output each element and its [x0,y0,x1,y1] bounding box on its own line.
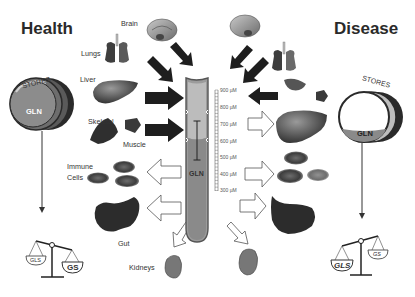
scale-400: 400 µM [220,171,237,177]
arrow-tube-to-gut-right [240,193,266,219]
liver-icon-right [276,111,327,144]
label-immune: Immune [67,162,93,171]
balance-right-gls: GLS [334,261,350,270]
ruler-ticks [215,90,218,191]
gut-icon-right [271,196,315,234]
arrow-liver-to-tube [145,86,184,110]
arrow-lungs-to-tube [147,56,173,82]
balance-left-gls: GLS [30,257,41,263]
arrow-muscle-right-to-tube [248,87,278,105]
stores-content-left: GLN [26,107,42,116]
liver-icon-left [93,80,138,103]
arrow-muscle-to-tube [145,118,184,142]
arrow-tube-to-kidney-right [227,222,248,244]
tube-gln-label: GLN [189,170,204,177]
arrow-tube-to-liver-right [248,111,274,137]
outflow-arrows-left [147,159,190,247]
kidney-icon-left [165,255,182,278]
lungs-icon-left [105,34,129,63]
arrow-brain-to-tube [170,42,193,66]
label-brain: Brain [121,19,138,28]
label-gut: Gut [118,239,130,248]
immune-cells-icon-right [277,152,329,184]
inflow-arrows-right [230,45,278,105]
skeletal-muscle-icon-left [125,118,141,133]
label-kidneys: Kidneys [129,263,155,272]
immune-cells-icon-left [87,161,139,187]
scale-800: 800 µM [220,104,237,110]
balance-right-gs: GS [373,251,381,257]
concentration-ruler [215,90,218,191]
brain-icon-right [230,15,260,37]
scale-600: 600 µM [220,138,237,144]
gut-icon-left [95,197,140,232]
lungs-icon-right [272,42,296,71]
label-liver: Liver [80,75,96,84]
glutamine-tube [186,78,208,242]
diagram-graphics [0,0,415,297]
scale-300: 300 µM [220,187,237,193]
arrow-tube-to-gut [147,195,181,221]
arrow-tube-to-immune [147,159,181,185]
arrow-tube-to-immune-right [245,161,274,187]
scale-700: 700 µM [220,121,237,127]
skeletal-muscle-icon-right [316,90,328,102]
balance-left-gs: GS [67,263,79,272]
outflow-arrows-right [227,111,274,244]
arrow-brain-right-to-tube [230,45,253,69]
kidney-icon-right [239,249,258,275]
brain-icon-left [147,19,177,41]
label-skeletal: Skeletal [88,117,114,126]
stores-barrel-left [10,78,74,130]
label-lungs: Lungs [81,49,101,58]
stores-content-right: GLN [357,129,373,138]
muscle-icon-right [284,79,306,91]
arrow-lungs-right-to-tube [243,57,269,83]
label-muscle: Muscle [123,140,146,149]
label-cells: Cells [67,173,83,182]
scale-900: 900 µM [220,87,237,93]
scale-500: 500 µM [220,154,237,160]
